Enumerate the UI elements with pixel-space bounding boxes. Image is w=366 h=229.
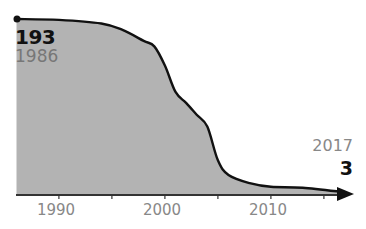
x-tick-label-2010: 2010 bbox=[249, 201, 287, 219]
area-chart: 193 1986 2017 3 1990 2000 2010 bbox=[0, 0, 366, 229]
end-year-label: 2017 bbox=[312, 136, 353, 155]
axis-arrow-icon bbox=[337, 187, 354, 201]
area-fill bbox=[17, 19, 346, 195]
start-point-marker bbox=[14, 16, 21, 23]
x-tick-label-2000: 2000 bbox=[143, 201, 181, 219]
start-year-label: 1986 bbox=[15, 46, 58, 66]
x-tick-label-1990: 1990 bbox=[37, 201, 75, 219]
end-value-label: 3 bbox=[340, 157, 353, 179]
